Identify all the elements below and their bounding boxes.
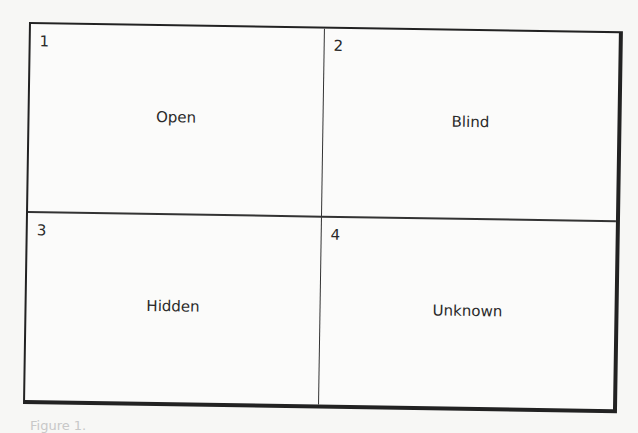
- quadrant-open: 1 Open: [28, 24, 325, 218]
- quadrant-number: 3: [37, 221, 47, 239]
- quadrant-label: Unknown: [320, 299, 614, 322]
- quadrant-label: Blind: [323, 110, 617, 133]
- quadrant-number: 2: [334, 37, 344, 55]
- figure-caption: Figure 1.: [30, 418, 86, 433]
- quadrant-label: Hidden: [26, 294, 319, 317]
- quadrant-blind: 2 Blind: [322, 29, 619, 223]
- quadrant-number: 1: [40, 32, 50, 50]
- johari-window-grid: 1 Open 2 Blind 3 Hidden 4 Unknown: [23, 22, 623, 413]
- quadrant-number: 4: [331, 226, 341, 244]
- quadrant-unknown: 4 Unknown: [319, 218, 616, 410]
- quadrant-label: Open: [29, 106, 322, 129]
- quadrant-hidden: 3 Hidden: [25, 213, 322, 405]
